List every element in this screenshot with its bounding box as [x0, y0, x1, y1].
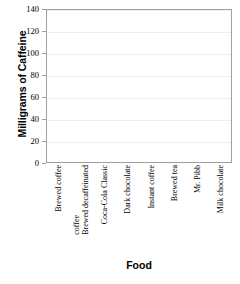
- x-axis-label-line: coffee: [72, 165, 81, 235]
- x-axis-label-text: Brewed decaffeinatedcoffee: [72, 165, 90, 235]
- x-axis-label-text: Brewed coffee: [53, 165, 62, 212]
- y-tick-label: 140: [5, 5, 39, 14]
- x-axis-label: Coca-Cola Classic: [93, 163, 116, 251]
- y-tick-label: 20: [5, 137, 39, 146]
- x-axis-label-line: Brewed coffee: [53, 165, 62, 212]
- y-tick-label: 120: [5, 27, 39, 36]
- x-axis-label-text: Mr. Pibb: [193, 165, 202, 193]
- x-axis-label-text: Instant coffee: [146, 165, 155, 209]
- x-axis-label-text: Milk chocolate: [216, 165, 225, 213]
- x-axis-label-text: Coca-Cola Classic: [100, 165, 109, 224]
- x-axis-label: Dark chocolate: [116, 163, 139, 251]
- y-tick-label: 60: [5, 93, 39, 102]
- x-axis-label: Brewed tea: [162, 163, 185, 251]
- x-axis-label-line: Mr. Pibb: [193, 165, 202, 193]
- x-axis-label: Mr. Pibb: [186, 163, 209, 251]
- y-tick-label: 80: [5, 71, 39, 80]
- x-axis-label: Brewed coffee: [46, 163, 69, 251]
- x-axis-label-line: Dark chocolate: [123, 165, 132, 214]
- x-axis-label: Brewed decaffeinatedcoffee: [69, 163, 92, 251]
- bars-layer: [47, 10, 231, 162]
- x-axis-label-line: Milk chocolate: [216, 165, 225, 213]
- x-axis-label: Milk chocolate: [209, 163, 232, 251]
- plot-area: [46, 9, 232, 163]
- x-axis-label-text: Brewed tea: [169, 165, 178, 201]
- x-axis-label-text: Dark chocolate: [123, 165, 132, 214]
- x-axis-label-line: Brewed decaffeinated: [81, 165, 90, 235]
- x-axis-category-labels: Brewed coffeeBrewed decaffeinatedcoffeeC…: [46, 163, 232, 251]
- y-tick-label: 100: [5, 49, 39, 58]
- y-tick-label: 0: [5, 159, 39, 168]
- x-axis-label-line: Coca-Cola Classic: [100, 165, 109, 224]
- x-axis-label-line: Brewed tea: [169, 165, 178, 201]
- caffeine-bar-chart: Milligrams of Caffeine 02040608010012014…: [0, 0, 240, 284]
- y-axis-tick-group: 020406080100120140: [0, 0, 46, 172]
- y-tick-label: 40: [5, 115, 39, 124]
- x-axis-label: Instant coffee: [139, 163, 162, 251]
- x-axis-label-line: Instant coffee: [146, 165, 155, 209]
- x-axis-title: Food: [46, 259, 232, 271]
